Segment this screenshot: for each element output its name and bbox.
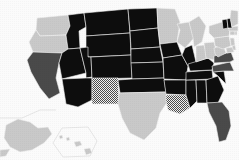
us-choropleth-map: Washington Oregon California Idaho Nevad…	[0, 0, 239, 160]
state-HI-2[interactable]: Hawaii	[66, 137, 70, 141]
state-HI[interactable]: Hawaii	[59, 135, 63, 139]
us-map-svg: Washington Oregon California Idaho Nevad…	[0, 0, 239, 160]
state-TN[interactable]: Tennessee	[186, 70, 213, 80]
state-ND[interactable]: North Dakota	[128, 8, 158, 31]
state-LA[interactable]: Louisiana	[166, 95, 190, 114]
state-NC[interactable]: North Carolina	[212, 62, 234, 72]
state-SD[interactable]: South Dakota	[130, 28, 160, 49]
state-MT[interactable]: Montana	[84, 9, 130, 36]
alaska-inset-frame	[0, 110, 56, 118]
state-NJ[interactable]: New Jersey	[230, 38, 235, 46]
state-ID[interactable]: Idaho	[66, 13, 86, 49]
state-ME[interactable]: Maine	[230, 10, 238, 27]
state-AZ[interactable]: Arizona	[62, 78, 92, 107]
state-MI[interactable]: Michigan	[189, 16, 206, 47]
state-AL[interactable]: Alabama	[196, 80, 207, 103]
state-MN[interactable]: Minnesota	[157, 8, 180, 44]
state-CO[interactable]: Colorado	[91, 55, 132, 79]
state-TX[interactable]: Texas	[118, 92, 168, 140]
state-AK[interactable]: Alaska	[4, 119, 52, 152]
state-CT[interactable]: Connecticut	[230, 31, 235, 35]
state-FL[interactable]: Florida	[207, 102, 231, 142]
state-WY[interactable]: Wyoming	[86, 33, 131, 57]
state-NM[interactable]: New Mexico	[92, 78, 119, 104]
state-AK-aleutians[interactable]: Alaska	[0, 149, 10, 157]
state-HI-3[interactable]: Hawaii	[74, 141, 82, 147]
state-OK[interactable]: Oklahoma	[118, 78, 166, 93]
state-AR[interactable]: Arkansas	[164, 80, 186, 95]
state-NE[interactable]: Nebraska	[131, 47, 163, 63]
state-KS[interactable]: Kansas	[131, 62, 164, 79]
states-layer: Washington Oregon California Idaho Nevad…	[0, 8, 238, 157]
state-CA[interactable]: California	[27, 52, 62, 99]
state-RI[interactable]: Rhode Island	[235, 31, 237, 35]
state-WA[interactable]: Washington	[36, 15, 70, 36]
state-GA[interactable]: Georgia	[206, 76, 224, 103]
